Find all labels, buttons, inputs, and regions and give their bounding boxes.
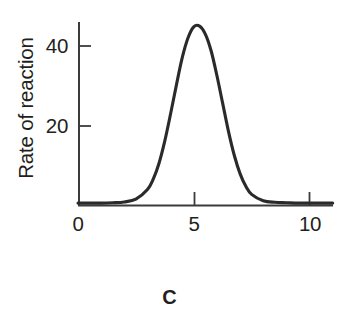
reaction-rate-curve [78,25,333,203]
panel-letter: C [0,286,339,309]
plot-area [0,0,339,323]
figure-panel: Rate of reaction 40 20 0 5 10 C [0,0,339,323]
